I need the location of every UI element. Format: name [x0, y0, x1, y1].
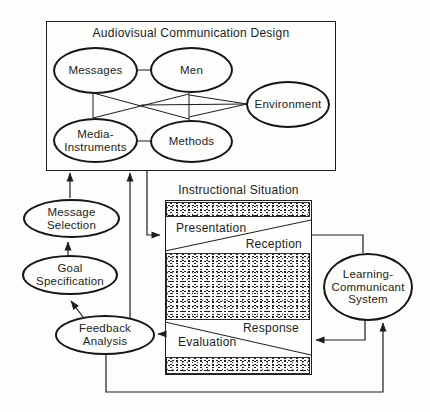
acd-box-title: Audiovisual Communication Design: [46, 26, 336, 40]
node-men-label: Men: [180, 64, 203, 77]
node-goal-specification: Goal Specification: [22, 255, 118, 295]
node-media-instruments: Media-Instruments: [53, 118, 138, 163]
response-label: Response: [199, 321, 299, 335]
reception-label: Reception: [202, 237, 302, 251]
node-media-instruments-label: Media-Instruments: [61, 128, 131, 154]
node-learning-communicant-system: Learning-Communicant System: [323, 253, 413, 321]
arrow-learner-to-response: [316, 320, 365, 340]
node-feedback-analysis: Feedback Analysis: [55, 315, 155, 355]
arrow-feedback-to-goal: [71, 301, 83, 317]
stipple-band-middle: [166, 253, 310, 320]
instructional-situation-title: Instructional Situation: [165, 183, 312, 197]
node-methods: Methods: [150, 120, 233, 163]
node-environment-label: Environment: [255, 98, 322, 111]
node-environment: Environment: [246, 81, 330, 128]
stipple-band-bottom: [166, 357, 310, 374]
node-feedback-analysis-label: Feedback Analysis: [71, 322, 139, 348]
presentation-label: Presentation: [176, 221, 246, 235]
node-message-selection: Message Selection: [23, 199, 120, 238]
node-men: Men: [150, 47, 233, 93]
communication-design-diagram: Audiovisual Communication Design Message…: [0, 0, 430, 412]
arrow-acd-to-presentation: [147, 170, 160, 235]
evaluation-label: Evaluation: [178, 335, 237, 349]
line-reception-to-learner: [312, 235, 363, 253]
node-goal-specification-label: Goal Specification: [29, 262, 111, 288]
node-messages: Messages: [53, 47, 138, 94]
node-messages-label: Messages: [68, 64, 122, 77]
stipple-band-top: [166, 202, 310, 217]
node-methods-label: Methods: [169, 135, 215, 148]
node-learning-communicant-system-label: Learning-Communicant System: [328, 268, 408, 307]
node-message-selection-label: Message Selection: [38, 206, 106, 232]
